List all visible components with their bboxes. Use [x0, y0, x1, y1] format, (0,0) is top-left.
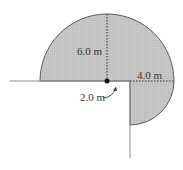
pivot-point-dot — [105, 79, 110, 84]
arrowhead-icon — [113, 87, 117, 92]
label-6m: 6.0 m — [77, 45, 103, 57]
area-diagram: 6.0 m 4.0 m 2.0 m — [0, 0, 183, 170]
label-2m: 2.0 m — [80, 91, 106, 103]
label-4m: 4.0 m — [137, 69, 163, 81]
